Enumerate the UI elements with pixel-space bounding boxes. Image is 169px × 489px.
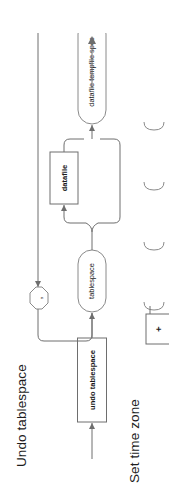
arrow-into-datafile-icon: [61, 205, 67, 211]
node-comma-separator-label: ,: [35, 297, 44, 299]
arrow-loop-back-icon: [35, 281, 41, 287]
node-plus-label: +: [154, 326, 164, 331]
railroad-diagram-set-time-zone: +: [140, 50, 169, 350]
railroad-svg-undo-tablespace: undo tablespace tablespace datafile: [24, 33, 124, 463]
railroad-diagram-undo-tablespace: undo tablespace tablespace datafile: [24, 33, 124, 463]
node-clipped-4: [144, 182, 164, 190]
wire-bypass-datafile: [92, 139, 120, 232]
node-undo-tablespace-label: undo tablespace: [88, 350, 97, 410]
arrow-exit-icon: [88, 36, 96, 44]
railroad-svg-set-time-zone: +: [140, 50, 169, 350]
wire-datafile-rejoin: [64, 139, 84, 152]
node-clipped-3: [144, 242, 164, 250]
node-datafile-label: datafile: [60, 165, 69, 192]
arrow-entry-icon: [89, 423, 95, 429]
section-heading-set-time-zone: Set time zone: [127, 399, 142, 483]
node-tablespace-label: tablespace: [87, 263, 96, 299]
wire-loop-back-return: [38, 309, 92, 341]
wire-into-datafile: [64, 205, 92, 232]
node-clipped-5: [144, 122, 164, 130]
syntax-diagram-page: Undo tablespace undo tablespace tablespa…: [0, 0, 169, 489]
exit-arrow-svg: [80, 28, 104, 88]
exit-arrow-group-undo-tablespace: [80, 28, 104, 88]
arrow-to-spec-icon: [89, 125, 95, 131]
node-clipped-1: [144, 302, 164, 310]
